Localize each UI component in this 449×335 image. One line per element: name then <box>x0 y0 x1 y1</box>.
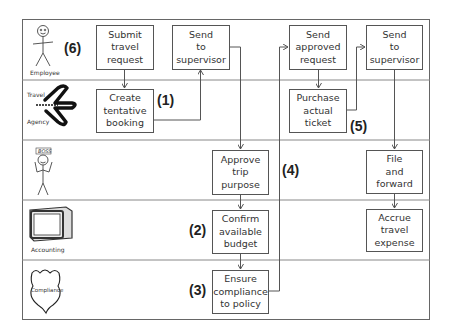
step-submit-travel-request: Submit travel request <box>96 25 154 70</box>
step-send-to-supervisor-1: Send to supervisor <box>172 25 230 70</box>
marker-1: (1) <box>157 92 174 108</box>
step-purchase-actual-ticket: Purchase actual ticket <box>289 89 347 133</box>
lane-label-boss: BOSS <box>38 148 52 154</box>
lane-label-travel: Travel <box>27 91 45 98</box>
marker-3: (3) <box>189 282 206 298</box>
computer-monitor-icon <box>30 207 72 241</box>
step-accrue-travel-expense: Accrue travel expense <box>366 209 423 252</box>
step-file-and-forward: File and forward <box>366 150 423 194</box>
marker-5: (5) <box>350 118 367 134</box>
lane-label-agency: Agency <box>27 118 49 125</box>
marker-6: (6) <box>64 40 81 56</box>
marker-4: (4) <box>282 162 299 178</box>
step-ensure-compliance: Ensure compliance to policy <box>212 270 269 314</box>
lane-label-employee: Employee <box>30 69 60 76</box>
step-approve-trip-purpose: Approve trip purpose <box>212 150 269 195</box>
step-send-approved-request: Send approved request <box>289 25 347 70</box>
boss-stick-figure-icon <box>35 148 52 195</box>
step-send-to-supervisor-2: Send to supervisor <box>366 25 423 70</box>
lane-label-compliance: Compliance <box>31 287 63 293</box>
marker-2: (2) <box>189 222 206 238</box>
step-confirm-available-budget: Confirm available budget <box>212 210 269 254</box>
step-create-tentative-booking: Create tentative booking <box>96 89 154 133</box>
stick-figure-icon <box>33 26 53 67</box>
lane-label-accounting: Accounting <box>31 246 65 253</box>
